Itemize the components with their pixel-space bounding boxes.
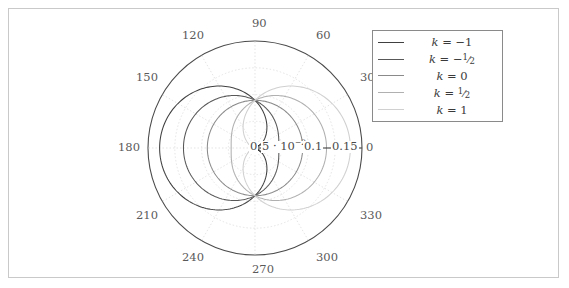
- legend-equals-sign: =: [440, 52, 450, 66]
- legend-entry[interactable]: k = −1⁄2: [378, 51, 496, 67]
- radial-label-mantissa: 5 · 10: [262, 139, 295, 153]
- legend-value-fraction: 1⁄2: [458, 87, 471, 100]
- legend-entry-label: k = 1⁄2: [408, 86, 496, 100]
- angle-tick-label-0: 0: [366, 142, 373, 154]
- angle-tick-label-60: 60: [316, 30, 331, 42]
- angle-tick-label-120: 120: [182, 30, 204, 42]
- legend-value-denominator: 2: [465, 90, 470, 100]
- angle-tick-label-330: 330: [360, 210, 382, 222]
- legend-variable: k: [436, 103, 443, 117]
- legend-equals-sign: =: [447, 103, 457, 117]
- legend-entry-label: k = −1: [408, 35, 496, 49]
- radial-tick-label-r005: 5 · 10−2: [261, 141, 307, 153]
- legend-equals-sign: =: [442, 35, 452, 49]
- radial-tick-label-r015: 0.15: [331, 141, 359, 153]
- angle-tick-label-150: 150: [136, 72, 158, 84]
- legend-value: 1: [460, 103, 467, 117]
- legend-value: 0: [460, 69, 467, 83]
- polar-chart-figure: 9012060150301800210330240300270 05 · 10−…: [0, 0, 569, 288]
- angle-tick-label-270: 270: [252, 264, 274, 276]
- legend-entry[interactable]: k = 1⁄2: [378, 85, 496, 101]
- angle-tick-label-300: 300: [316, 252, 338, 264]
- angle-tick-label-90: 90: [252, 18, 267, 30]
- angle-tick-label-240: 240: [182, 252, 204, 264]
- legend-value-sign: −: [453, 52, 463, 66]
- angle-tick-label-210: 210: [136, 210, 158, 222]
- legend-equals-sign: =: [444, 86, 454, 100]
- legend-value: −1: [455, 35, 472, 49]
- legend-variable: k: [432, 35, 439, 49]
- legend-entry[interactable]: k = −1: [378, 34, 496, 50]
- legend-entry-label: k = −1⁄2: [408, 52, 496, 66]
- legend-equals-sign: =: [447, 69, 457, 83]
- angle-tick-label-180: 180: [118, 142, 140, 154]
- legend-variable: k: [434, 86, 441, 100]
- legend-color-swatch: [378, 109, 404, 110]
- legend-variable: k: [429, 52, 436, 66]
- legend-entry-label: k = 0: [408, 69, 496, 83]
- legend-entry[interactable]: k = 1: [378, 102, 496, 118]
- radial-tick-label-r01: 0.1: [303, 141, 323, 153]
- legend-value-fraction: −1⁄2: [453, 53, 475, 66]
- radial-tick-label-r0: 0: [249, 141, 258, 153]
- legend-box: k = −1k = −1⁄2k = 0k = 1⁄2k = 1: [372, 30, 503, 122]
- legend-value-denominator: 2: [470, 56, 475, 66]
- legend-entry[interactable]: k = 0: [378, 68, 496, 84]
- legend-color-swatch: [378, 92, 404, 93]
- legend-color-swatch: [378, 42, 404, 43]
- legend-color-swatch: [378, 75, 404, 76]
- legend-color-swatch: [378, 59, 404, 60]
- legend-variable: k: [436, 69, 443, 83]
- legend-entry-label: k = 1: [408, 103, 496, 117]
